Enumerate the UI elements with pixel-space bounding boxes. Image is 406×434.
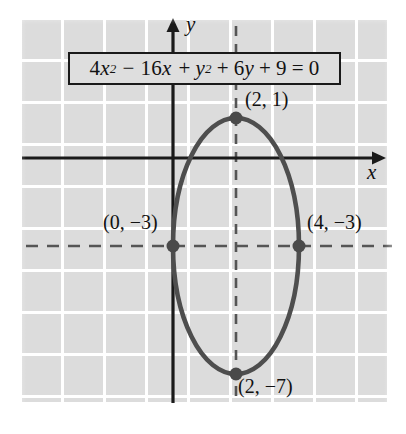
point-label-right: (4, −3) — [307, 211, 362, 234]
x-axis-label: x — [367, 160, 376, 185]
point-label-left: (0, −3) — [103, 211, 158, 234]
equation-equals-sign: = — [292, 56, 304, 81]
equation-operator-2: + — [178, 56, 190, 81]
equation-exponent-1: 2 — [110, 61, 117, 77]
equation-coefficient-2: 16 — [140, 56, 161, 81]
y-axis-arrowhead — [167, 18, 180, 32]
equation-right-hand-side: 0 — [309, 56, 320, 81]
point-label-top: (2, 1) — [245, 88, 288, 111]
equation-operator-1: − — [122, 56, 134, 81]
y-axis-label: y — [186, 12, 195, 37]
vertex-point-right — [293, 240, 306, 253]
equation-variable-x2: x — [162, 56, 172, 81]
point-label-bottom: (2, −7) — [238, 375, 293, 398]
equation-operator-3: + — [217, 56, 229, 81]
equation-variable-x1: x — [100, 56, 110, 81]
ellipse-figure: 4x2 − 16x + y2 + 6y + 9 = 0 y x (2, 1) (… — [0, 0, 406, 434]
equation-variable-y1: y — [195, 56, 205, 81]
equation-operator-4: + — [259, 56, 271, 81]
equation-box: 4x2 − 16x + y2 + 6y + 9 = 0 — [68, 52, 341, 85]
equation-constant: 9 — [276, 56, 287, 81]
equation-coefficient-3: 6 — [234, 56, 245, 81]
equation-variable-y2: y — [244, 56, 254, 81]
equation-exponent-2: 2 — [205, 61, 212, 77]
vertex-point-left — [167, 240, 180, 253]
equation-coefficient-1: 4 — [89, 56, 100, 81]
vertex-point-top — [230, 112, 243, 125]
